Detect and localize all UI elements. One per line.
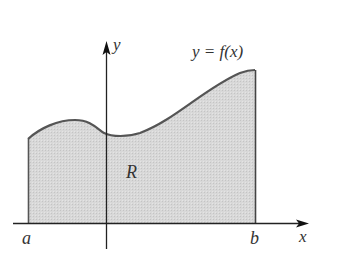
left-bound-label: a	[22, 228, 31, 248]
region-r-shading	[28, 70, 255, 223]
right-bound-label: b	[250, 228, 259, 248]
curve-label: y = f(x)	[190, 42, 243, 61]
x-axis-label: x	[298, 227, 307, 246]
y-axis-label: y	[111, 35, 121, 54]
area-under-curve-diagram: y y = f(x) R a b x	[0, 0, 338, 260]
region-label: R	[125, 162, 137, 182]
